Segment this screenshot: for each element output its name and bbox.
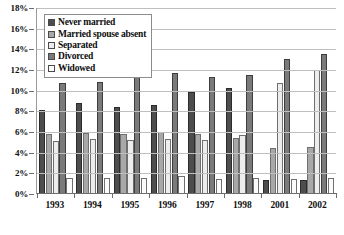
bar[interactable]	[253, 178, 259, 194]
bar-group	[224, 8, 261, 193]
y-axis-tick	[29, 8, 34, 9]
bar[interactable]	[202, 140, 208, 193]
bar[interactable]	[46, 134, 52, 193]
bar[interactable]	[165, 139, 171, 193]
bar[interactable]	[321, 54, 327, 194]
legend-swatch-icon	[48, 19, 55, 26]
bar[interactable]	[76, 103, 82, 193]
bar[interactable]	[277, 83, 283, 193]
bar[interactable]	[328, 178, 334, 194]
legend-label: Married spouse absent	[58, 29, 146, 40]
x-axis-tick	[112, 193, 113, 198]
y-axis-tick-label: 12%	[11, 65, 28, 75]
legend-label: Never married	[58, 17, 115, 28]
bar[interactable]	[90, 139, 96, 193]
y-axis-tick-label: 14%	[11, 44, 28, 54]
bar[interactable]	[59, 83, 65, 193]
bar-group	[299, 8, 336, 193]
gridline	[37, 111, 336, 112]
bar[interactable]	[209, 77, 215, 193]
bar[interactable]	[246, 75, 252, 193]
x-axis-tick-label: 1994	[74, 200, 112, 210]
legend-item[interactable]: Widowed	[48, 63, 146, 74]
bar[interactable]	[104, 178, 110, 194]
gridline	[37, 153, 336, 154]
bar[interactable]	[270, 148, 276, 193]
y-axis-tick-label: 4%	[15, 148, 28, 158]
y-axis-tick-label: 2%	[15, 168, 28, 178]
legend-label: Widowed	[58, 63, 95, 74]
bar[interactable]	[300, 180, 306, 193]
chart-legend: Never marriedMarried spouse absentSepara…	[44, 14, 152, 78]
x-axis-tick-label: 2001	[261, 200, 299, 210]
y-axis-tick-label: 16%	[11, 24, 28, 34]
x-axis-tick	[336, 193, 337, 198]
legend-item[interactable]: Married spouse absent	[48, 28, 146, 39]
y-axis-tick	[29, 111, 34, 112]
legend-swatch-icon	[48, 42, 55, 49]
gridline	[37, 173, 336, 174]
bar[interactable]	[263, 180, 269, 193]
x-axis-tick-label: 1998	[224, 200, 262, 210]
bar[interactable]	[127, 140, 133, 193]
y-axis-tick	[29, 132, 34, 133]
x-axis-tick	[261, 193, 262, 198]
legend-swatch-icon	[48, 53, 55, 60]
y-axis-tick-label: 18%	[11, 3, 28, 13]
y-axis-tick	[29, 70, 34, 71]
y-axis-tick	[29, 49, 34, 50]
bar[interactable]	[114, 107, 120, 193]
bar[interactable]	[83, 133, 89, 193]
bar-group	[149, 8, 186, 193]
x-axis-tick	[224, 193, 225, 198]
bar-chart: 0%2%4%6%8%10%12%14%16%18% 19931994199519…	[0, 0, 344, 235]
bar-group	[187, 8, 224, 193]
y-axis-tick-label: 6%	[15, 127, 28, 137]
y-axis-tick-label: 0%	[15, 189, 28, 199]
y-axis-tick	[29, 153, 34, 154]
bar[interactable]	[233, 138, 239, 193]
x-axis: 19931994199519961997199820012002	[36, 200, 336, 210]
x-axis-tick	[299, 193, 300, 198]
bar[interactable]	[178, 176, 184, 193]
x-axis-tick-label: 1996	[149, 200, 187, 210]
x-axis-tick-label: 2002	[299, 200, 337, 210]
bar[interactable]	[97, 82, 103, 193]
bar[interactable]	[195, 134, 201, 193]
bar[interactable]	[291, 179, 297, 193]
bar[interactable]	[239, 135, 245, 193]
y-axis-tick	[29, 173, 34, 174]
x-axis-tick-label: 1995	[111, 200, 149, 210]
bar[interactable]	[151, 105, 157, 193]
x-axis-tick	[37, 193, 38, 198]
legend-swatch-icon	[48, 31, 55, 38]
y-axis-tick-label: 10%	[11, 86, 28, 96]
bar[interactable]	[120, 134, 126, 193]
x-axis-tick-label: 1993	[36, 200, 74, 210]
gridline	[37, 8, 336, 9]
legend-item[interactable]: Divorced	[48, 51, 146, 62]
gridline	[37, 91, 336, 92]
x-axis-tick	[149, 193, 150, 198]
gridline	[37, 132, 336, 133]
bar[interactable]	[216, 179, 222, 193]
y-axis-tick	[29, 91, 34, 92]
bar[interactable]	[134, 76, 140, 193]
y-axis-tick	[29, 29, 34, 30]
bar[interactable]	[188, 92, 194, 193]
y-axis-tick	[29, 194, 34, 195]
bar[interactable]	[53, 141, 59, 193]
y-axis: 0%2%4%6%8%10%12%14%16%18%	[0, 8, 34, 194]
legend-swatch-icon	[48, 65, 55, 72]
legend-label: Divorced	[58, 51, 93, 62]
bar[interactable]	[158, 132, 164, 193]
x-axis-tick	[74, 193, 75, 198]
bar[interactable]	[66, 178, 72, 194]
bar-group	[261, 8, 298, 193]
legend-label: Separated	[58, 40, 97, 51]
bar[interactable]	[141, 178, 147, 194]
bar[interactable]	[226, 88, 232, 193]
legend-item[interactable]: Separated	[48, 40, 146, 51]
legend-item[interactable]: Never married	[48, 17, 146, 28]
y-axis-tick-label: 8%	[15, 106, 28, 116]
